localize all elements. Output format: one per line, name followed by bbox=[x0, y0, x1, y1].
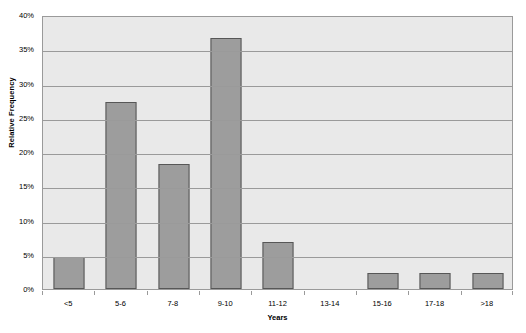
gridline bbox=[43, 86, 512, 87]
y-axis-tick-label: 10% bbox=[19, 218, 34, 226]
gridline bbox=[43, 257, 512, 258]
x-axis-tick-label: 15-16 bbox=[373, 299, 392, 308]
y-axis-tick-label: 40% bbox=[19, 12, 34, 20]
bar[interactable] bbox=[472, 273, 503, 289]
y-axis-tick-label: 20% bbox=[19, 149, 34, 157]
y-axis-tick-label: 0% bbox=[23, 286, 34, 294]
bar[interactable] bbox=[158, 164, 189, 289]
x-axis-tick-mark bbox=[147, 291, 148, 295]
x-axis-tick-labels: <55-67-89-1011-1213-1415-1617-18>18 bbox=[42, 291, 513, 311]
x-axis-tick-mark bbox=[42, 291, 43, 295]
bar-slot bbox=[462, 17, 514, 289]
gridline bbox=[43, 154, 512, 155]
bar-slot bbox=[200, 17, 252, 289]
x-axis-tick-mark bbox=[199, 291, 200, 295]
bar[interactable] bbox=[211, 38, 242, 289]
x-axis-tick-label: 13-14 bbox=[320, 299, 339, 308]
x-axis-tick-mark bbox=[408, 291, 409, 295]
bar-slot bbox=[409, 17, 461, 289]
y-axis-tick-label: 15% bbox=[19, 184, 34, 192]
y-axis-tick-label: 25% bbox=[19, 115, 34, 123]
x-axis-tick-label: <5 bbox=[64, 299, 73, 308]
bar[interactable] bbox=[420, 273, 451, 289]
bar-slot bbox=[252, 17, 304, 289]
bar[interactable] bbox=[368, 273, 399, 289]
bar-slot bbox=[357, 17, 409, 289]
bar-slot bbox=[43, 17, 95, 289]
x-axis-tick-label: 5-6 bbox=[115, 299, 126, 308]
y-axis-tick-label: 30% bbox=[19, 81, 34, 89]
bar[interactable] bbox=[106, 102, 137, 289]
x-axis-tick-mark bbox=[461, 291, 462, 295]
bar-chart: Relative Frequency 0%5%10%15%20%25%30%35… bbox=[0, 0, 526, 333]
gridline bbox=[43, 188, 512, 189]
x-axis-tick-label: 7-8 bbox=[167, 299, 178, 308]
bar[interactable] bbox=[263, 242, 294, 289]
x-axis-tick-mark bbox=[356, 291, 357, 295]
x-axis-tick-mark bbox=[512, 291, 513, 295]
x-axis-tick-label: 17-18 bbox=[425, 299, 444, 308]
bar-slot bbox=[95, 17, 147, 289]
gridline bbox=[43, 51, 512, 52]
x-axis-title: Years bbox=[42, 313, 513, 322]
y-axis-tick-labels: 0%5%10%15%20%25%30%35%40% bbox=[0, 16, 38, 290]
bar-slot bbox=[148, 17, 200, 289]
gridline bbox=[43, 223, 512, 224]
gridline bbox=[43, 120, 512, 121]
y-axis-tick-label: 5% bbox=[23, 252, 34, 260]
x-axis-tick-mark bbox=[94, 291, 95, 295]
bar-series bbox=[43, 17, 512, 289]
x-axis-tick-mark bbox=[251, 291, 252, 295]
plot-area bbox=[42, 16, 513, 290]
x-axis-tick-label: >18 bbox=[480, 299, 493, 308]
x-axis-tick-label: 9-10 bbox=[218, 299, 233, 308]
bar-slot bbox=[305, 17, 357, 289]
bar[interactable] bbox=[54, 257, 85, 289]
x-axis-tick-mark bbox=[304, 291, 305, 295]
x-axis-tick-label: 11-12 bbox=[268, 299, 287, 308]
y-axis-tick-label: 35% bbox=[19, 47, 34, 55]
